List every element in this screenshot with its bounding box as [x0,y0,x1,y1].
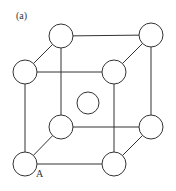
atom-back-top-left [49,24,73,48]
atom-front-top-right [102,60,126,84]
atom-back-top-right [139,23,163,47]
atom-front-bottom-left [13,152,37,176]
atom-front-top-left [13,60,37,84]
atom-body-center [77,92,99,114]
atom-back-bottom-right [139,115,163,139]
bcc-unit-cell-diagram: (a) A [0,0,176,191]
edge-back-top [61,35,151,36]
corner-label-a: A [36,168,44,179]
atom-back-bottom-left [49,115,73,139]
panel-label: (a) [16,10,27,22]
atom-front-bottom-right [102,152,126,176]
